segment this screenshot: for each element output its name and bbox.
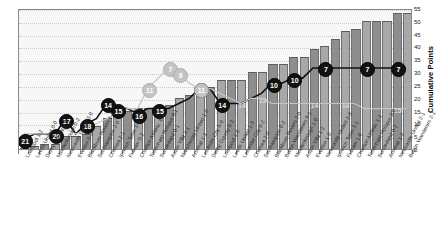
y-axis-tick-label: 40 <box>414 44 421 50</box>
y-axis-tick-label: 50 <box>414 19 421 25</box>
data-point-marker: 8 <box>173 68 188 83</box>
chart-container: 171514131414152120 212017181516141511141… <box>0 0 444 234</box>
data-point-marker: 11 <box>142 83 157 98</box>
data-point-label: 14 <box>342 101 350 108</box>
y-axis-tick-label: 55 <box>414 6 421 12</box>
data-point-marker: 10 <box>267 78 282 93</box>
data-point-label: 13 <box>259 96 267 103</box>
y-axis-tick-label: 30 <box>414 70 421 76</box>
data-point-label: 14 <box>311 101 319 108</box>
data-point-marker: 11 <box>194 83 209 98</box>
y-axis-tick-label: 45 <box>414 32 421 38</box>
data-point-marker: 14 <box>215 98 230 113</box>
y-axis-tick-label: 25 <box>414 83 421 89</box>
data-point-marker: 10 <box>287 73 302 88</box>
x-axis: Liverpool 1-2Leeds United 0-0Derby Count… <box>18 150 412 234</box>
y-axis-tick-label: 20 <box>414 96 421 102</box>
data-point-marker: 14 <box>101 98 116 113</box>
y-axis-title-label: Cumulative Points <box>427 46 436 113</box>
y-axis-tick-label: 35 <box>414 57 421 63</box>
x-axis-tick <box>18 150 19 154</box>
data-point-label: 14 <box>238 101 246 108</box>
